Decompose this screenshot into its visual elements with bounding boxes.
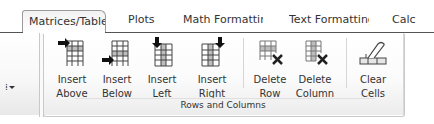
insert-row-below-icon [100, 36, 134, 70]
insert-above-button[interactable]: Insert Above [52, 36, 92, 101]
button-label-line1: Clear [353, 73, 393, 87]
button-label-line1: Insert [97, 73, 137, 87]
button-label-line1: Delete [293, 73, 337, 87]
insert-right-button[interactable]: Insert Right [192, 36, 232, 101]
chevron-down-icon[interactable] [9, 86, 15, 89]
button-label-line1: Insert [142, 73, 182, 87]
button-separator [346, 38, 347, 88]
button-label-line1: Insert [52, 73, 92, 87]
insert-column-right-icon [195, 36, 229, 70]
clear-cells-button[interactable]: Clear Cells [353, 36, 393, 101]
tab-math-formatting[interactable]: Math Formatting [183, 13, 263, 26]
tab-label: Math Formatting [183, 13, 263, 26]
insert-left-button[interactable]: Insert Left [142, 36, 182, 101]
group-label: Rows and Columns [43, 100, 403, 110]
tab-calc[interactable]: Calc [392, 13, 418, 26]
button-label-line1: Insert [192, 73, 232, 87]
delete-column-button[interactable]: Delete Column [293, 36, 337, 101]
group-right-border [403, 33, 404, 117]
button-label-line1: Delete [250, 73, 290, 87]
group-more-dots: ⁞ [5, 82, 8, 92]
delete-row-icon [253, 36, 287, 70]
insert-column-left-icon [145, 36, 179, 70]
tab-label: Text Formatting [289, 13, 369, 26]
group-label-divider [75, 98, 375, 99]
previous-ribbon-group [0, 33, 39, 115]
button-separator [243, 38, 244, 88]
tab-label: Plots [128, 13, 154, 26]
delete-row-button[interactable]: Delete Row [250, 36, 290, 101]
insert-below-button[interactable]: Insert Below [97, 36, 137, 101]
tab-label: Matrices/Table [29, 15, 106, 28]
tab-label: Calc [392, 13, 416, 26]
tab-plots[interactable]: Plots [128, 13, 162, 26]
eraser-icon [356, 36, 390, 70]
delete-column-icon [298, 36, 332, 70]
insert-row-above-icon [55, 36, 89, 70]
ribbon-tab-bar: Matrices/Table Plots Math Formatting Tex… [0, 0, 434, 33]
tab-text-formatting[interactable]: Text Formatting [289, 13, 369, 26]
tab-matrices-table[interactable]: Matrices/Table [22, 10, 106, 32]
